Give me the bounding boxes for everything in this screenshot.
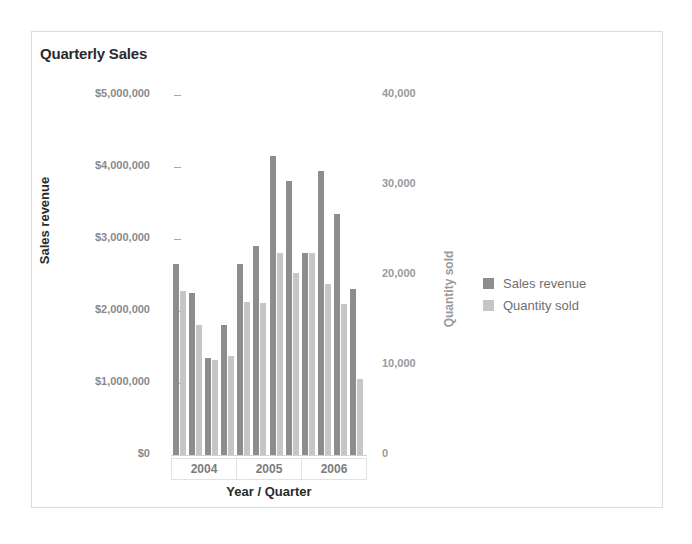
bar-sales-revenue[interactable] xyxy=(350,289,356,455)
bar-quantity-sold[interactable] xyxy=(228,356,234,455)
legend-item[interactable]: Sales revenue xyxy=(483,272,586,294)
bar-quantity-sold[interactable] xyxy=(277,253,283,456)
bar-group xyxy=(270,95,286,455)
y-axis-right-tick-label: 10,000 xyxy=(382,357,452,369)
x-axis-band-2005: 2005 xyxy=(237,458,302,480)
bar-sales-revenue[interactable] xyxy=(173,264,179,455)
legend-item[interactable]: Quantity sold xyxy=(483,294,586,316)
y-axis-right-tick-label: 30,000 xyxy=(382,177,452,189)
bar-sales-revenue[interactable] xyxy=(334,214,340,455)
bar-quantity-sold[interactable] xyxy=(180,291,186,455)
legend-item-label: Quantity sold xyxy=(503,298,579,313)
bar-group xyxy=(173,95,189,455)
y-axis-left-title: Sales revenue xyxy=(37,161,52,281)
bar-sales-revenue[interactable] xyxy=(318,171,324,455)
bar-quantity-sold[interactable] xyxy=(309,253,315,455)
y-axis-right-tick-label: 0 xyxy=(382,447,452,459)
y-axis-left-tick-label: $0 xyxy=(30,447,150,459)
bar-sales-revenue[interactable] xyxy=(302,253,308,455)
bar-sales-revenue[interactable] xyxy=(253,246,259,455)
bar-quantity-sold[interactable] xyxy=(357,379,363,456)
x-axis-band-2006: 2006 xyxy=(302,458,367,480)
bar-sales-revenue[interactable] xyxy=(189,293,195,455)
bar-sales-revenue[interactable] xyxy=(205,358,211,455)
bar-group xyxy=(350,95,366,455)
bar-quantity-sold[interactable] xyxy=(244,302,250,455)
bar-quantity-sold[interactable] xyxy=(212,360,218,455)
bar-group xyxy=(302,95,318,455)
bar-quantity-sold[interactable] xyxy=(325,284,331,455)
x-axis-band-2004: 2004 xyxy=(171,458,237,480)
y-axis-left-tick-label: $1,000,000 xyxy=(30,375,150,387)
bar-group xyxy=(286,95,302,455)
bar-sales-revenue[interactable] xyxy=(286,181,292,455)
bar-quantity-sold[interactable] xyxy=(293,273,299,455)
x-axis-baseline xyxy=(171,455,367,456)
y-axis-left-tick-label: $5,000,000 xyxy=(30,87,150,99)
legend-swatch-icon xyxy=(483,300,494,311)
chart-page: Quarterly Sales $0$1,000,000$2,000,000$3… xyxy=(0,0,692,544)
y-axis-right-title: Quantity sold xyxy=(442,234,456,344)
bar-sales-revenue[interactable] xyxy=(221,325,227,455)
bar-group xyxy=(205,95,221,455)
x-axis-title: Year / Quarter xyxy=(171,484,367,499)
bar-quantity-sold[interactable] xyxy=(196,325,202,456)
bar-group xyxy=(221,95,237,455)
bar-quantity-sold[interactable] xyxy=(341,304,347,455)
x-axis-bands: 200420052006 xyxy=(171,458,367,480)
y-axis-right-tick-label: 40,000 xyxy=(382,87,452,99)
bar-sales-revenue[interactable] xyxy=(270,156,276,455)
legend-swatch-icon xyxy=(483,278,494,289)
bar-group xyxy=(253,95,269,455)
bar-quantity-sold[interactable] xyxy=(260,303,266,455)
bar-group xyxy=(189,95,205,455)
bar-group xyxy=(237,95,253,455)
plot-area xyxy=(171,95,365,455)
legend-item-label: Sales revenue xyxy=(503,276,586,291)
chart-legend: Sales revenueQuantity sold xyxy=(483,272,586,316)
bar-group xyxy=(318,95,334,455)
bar-group xyxy=(334,95,350,455)
y-axis-left-tick-label: $2,000,000 xyxy=(30,303,150,315)
bar-sales-revenue[interactable] xyxy=(237,264,243,455)
